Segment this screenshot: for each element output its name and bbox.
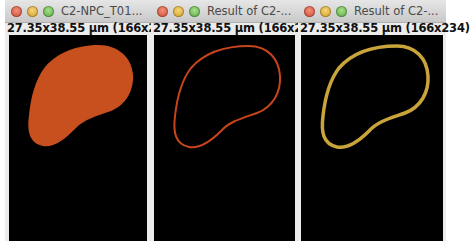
title-bar[interactable]: Result of C2-... — [151, 0, 298, 23]
nucleus-outline-thick — [301, 35, 443, 240]
window-title: Result of C2-... — [207, 4, 291, 18]
close-button[interactable] — [304, 6, 315, 17]
title-bar[interactable]: Result of C2-... — [298, 0, 446, 23]
close-button[interactable] — [157, 6, 168, 17]
nucleus-outline — [154, 35, 295, 240]
image-window-3[interactable]: Result of C2-... 27.35x38.55 µm (166x234… — [298, 0, 446, 241]
minimize-button[interactable] — [173, 6, 184, 17]
zoom-button[interactable] — [189, 6, 200, 17]
image-canvas[interactable] — [9, 35, 147, 241]
title-bar[interactable]: C2-NPC_T01... — [5, 0, 151, 23]
image-info: 27.35x38.55 µm (166x234) — [300, 22, 470, 35]
minimize-button[interactable] — [320, 6, 331, 17]
filled-nucleus-mask — [9, 35, 147, 240]
window-title: Result of C2-... — [354, 4, 438, 18]
image-canvas[interactable] — [301, 35, 443, 241]
close-button[interactable] — [11, 6, 22, 17]
zoom-button[interactable] — [43, 6, 54, 17]
zoom-button[interactable] — [336, 6, 347, 17]
image-window-1[interactable]: C2-NPC_T01... 27.35x38.55 µm (166x234) — [5, 0, 151, 241]
image-window-2[interactable]: Result of C2-... 27.35x38.55 µm (166x234… — [151, 0, 298, 241]
minimize-button[interactable] — [27, 6, 38, 17]
image-canvas[interactable] — [154, 35, 295, 241]
window-title: C2-NPC_T01... — [61, 4, 142, 18]
